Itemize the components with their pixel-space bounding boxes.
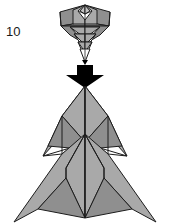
origami-step-diagram: 10 xyxy=(0,0,170,224)
arrow-tail-tick xyxy=(82,60,88,65)
after-figure xyxy=(0,82,170,224)
